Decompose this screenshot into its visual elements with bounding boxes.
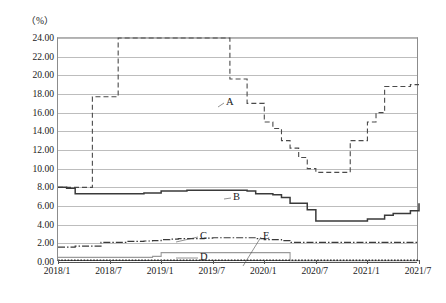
x-tick-mark (110, 260, 111, 264)
x-tick-mark (419, 260, 420, 264)
y-axis-tick-label: 6.00 (37, 200, 54, 211)
y-axis-tick-label: 14.00 (32, 125, 54, 136)
x-axis-tick-label: 2019/1 (147, 265, 174, 276)
y-axis-tick-label: 2.00 (37, 237, 54, 248)
series-line-A (58, 38, 419, 187)
chart-container: （%） 0.002.004.006.008.0010.0012.0014.001… (0, 0, 446, 303)
plot-area (57, 37, 418, 261)
series-label-C: C (200, 230, 207, 241)
gridline (58, 262, 417, 263)
series-line-D (58, 253, 419, 261)
x-axis-tick-label: 2021/1 (353, 265, 380, 276)
x-axis-tick-label: 2018/1 (44, 265, 71, 276)
x-axis-tick-label: 2019/7 (198, 265, 225, 276)
x-tick-mark (213, 260, 214, 264)
y-axis-tick-label: 4.00 (37, 218, 54, 229)
y-axis-tick-label: 12.00 (32, 144, 54, 155)
x-tick-mark (58, 260, 59, 264)
series-lines (58, 38, 419, 262)
series-label-D: D (200, 251, 208, 262)
series-line-C (58, 238, 419, 247)
x-axis-tick-label: 2018/7 (95, 265, 122, 276)
series-label-A: A (226, 96, 234, 107)
x-axis-tick-label: 2020/7 (302, 265, 329, 276)
y-axis-tick-label: 10.00 (32, 162, 54, 173)
x-axis-tick-label: 2020/1 (250, 265, 277, 276)
x-axis-tick-label: 2021/7 (405, 265, 432, 276)
y-axis-tick-label: 16.00 (32, 106, 54, 117)
y-axis-tick-label: 22.00 (32, 50, 54, 61)
x-tick-mark (264, 260, 265, 264)
y-axis-tick-label: 24.00 (32, 32, 54, 43)
series-label-B: B (233, 191, 240, 202)
series-label-E: E (263, 230, 269, 241)
x-tick-mark (161, 260, 162, 264)
y-axis-unit-label: （%） (26, 13, 54, 27)
x-tick-mark (367, 260, 368, 264)
y-axis-tick-label: 8.00 (37, 181, 54, 192)
y-axis-tick-label: 18.00 (32, 88, 54, 99)
y-axis-tick-label: 20.00 (32, 69, 54, 80)
x-tick-mark (316, 260, 317, 264)
